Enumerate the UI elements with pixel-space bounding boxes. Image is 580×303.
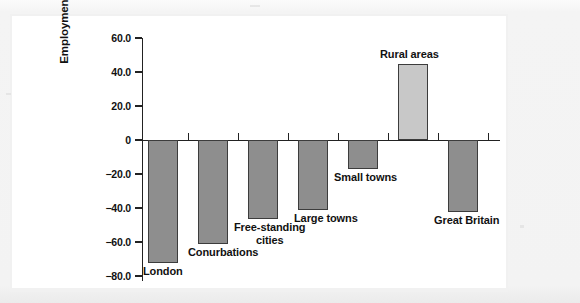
y-axis-tick: −80.0 — [135, 275, 142, 276]
y-axis-line — [142, 38, 143, 281]
bar — [248, 140, 278, 219]
scan-speck — [250, 5, 260, 7]
y-axis-tick: −40.0 — [135, 207, 142, 208]
y-axis-tick-label: 0 — [125, 134, 131, 146]
bar-label: Small towns — [334, 171, 397, 184]
bar — [398, 64, 428, 141]
y-axis-tick: −20.0 — [135, 173, 142, 174]
y-axis-tick: −60.0 — [135, 241, 142, 242]
bar-label: Free-standing cities — [234, 221, 305, 246]
y-axis-tick-label: 60.0 — [111, 32, 131, 44]
y-axis-tick-label: −40.0 — [105, 202, 131, 214]
y-axis-tick-label: −80.0 — [105, 270, 131, 282]
bar-label: Large towns — [294, 212, 358, 225]
x-axis-tick — [288, 133, 289, 140]
x-axis-tick — [388, 133, 389, 140]
bar-label: Great Britain — [434, 214, 499, 227]
scan-speck — [520, 225, 524, 228]
bar — [148, 140, 178, 263]
y-axis-title: Employment change (%) — [58, 0, 72, 88]
bar-label: London — [143, 265, 183, 278]
x-axis-tick — [238, 133, 239, 140]
y-axis-tick-label: −20.0 — [105, 168, 131, 180]
bar — [348, 140, 378, 169]
y-axis-tick-label: 20.0 — [111, 100, 131, 112]
x-axis-tick — [188, 133, 189, 140]
y-axis-tick: 0 — [135, 139, 142, 140]
y-axis-tick-label: 40.0 — [111, 66, 131, 78]
y-axis-tick: 40.0 — [135, 71, 142, 72]
x-axis-tick — [338, 133, 339, 140]
y-axis-tick: 20.0 — [135, 105, 142, 106]
bar — [448, 140, 478, 212]
scan-speck — [6, 93, 11, 95]
x-axis-tick — [488, 133, 489, 140]
bar — [298, 140, 328, 210]
x-axis-tick — [438, 133, 439, 140]
figure-container: Employment change (%) 60.040.020.00−20.0… — [0, 0, 580, 303]
bar-label: Rural areas — [380, 48, 439, 61]
bar-label: Conurbations — [188, 246, 258, 259]
y-axis-tick: 60.0 — [135, 37, 142, 38]
bar — [198, 140, 228, 244]
y-axis-tick-label: −60.0 — [105, 236, 131, 248]
